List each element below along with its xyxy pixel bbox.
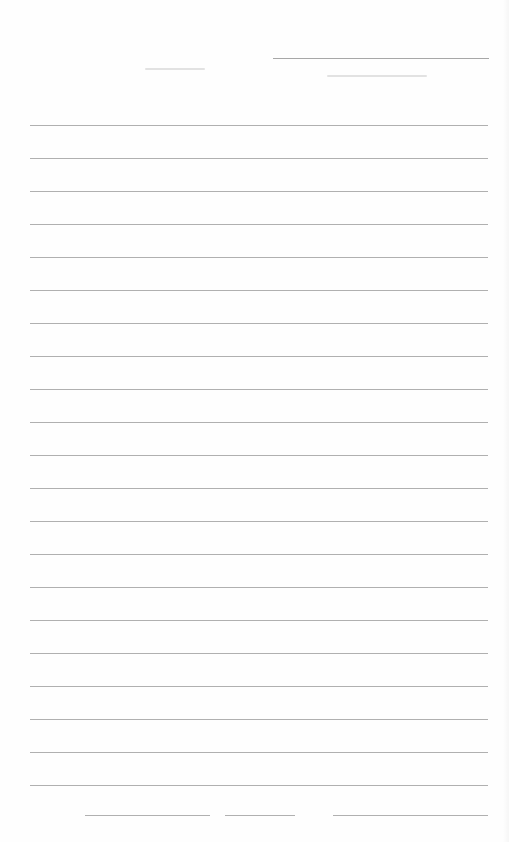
notebook-page — [0, 0, 509, 842]
ruled-line-segment — [225, 815, 295, 816]
ruled-line — [30, 224, 488, 225]
ruled-line — [30, 521, 488, 522]
ruled-line — [30, 422, 488, 423]
ruled-line — [30, 125, 488, 126]
ruled-line — [30, 587, 488, 588]
ruled-line — [30, 389, 488, 390]
ruled-line — [30, 455, 488, 456]
ruled-line — [30, 356, 488, 357]
ruled-line — [30, 653, 488, 654]
ruled-line — [30, 158, 488, 159]
ruled-line-segment — [333, 815, 488, 816]
ruled-line — [30, 785, 488, 786]
ruled-line — [30, 290, 488, 291]
page-edge — [503, 0, 509, 842]
ruled-lines — [0, 0, 509, 842]
ruled-line — [30, 191, 488, 192]
ruled-line — [30, 554, 488, 555]
ruled-line — [30, 752, 488, 753]
ruled-line — [30, 620, 488, 621]
ruled-line — [30, 323, 488, 324]
ruled-line — [30, 488, 488, 489]
ruled-line-segment — [85, 815, 210, 816]
ruled-line — [30, 719, 488, 720]
ruled-line — [30, 686, 488, 687]
ruled-line — [30, 257, 488, 258]
